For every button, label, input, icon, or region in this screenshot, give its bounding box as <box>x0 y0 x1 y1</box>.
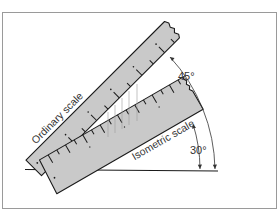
isometric-scale-diagram: Ordinary scale Isometric scale <box>0 0 278 216</box>
angle-30-label: 30° <box>190 144 207 156</box>
angle-45-label: 45° <box>178 70 195 82</box>
